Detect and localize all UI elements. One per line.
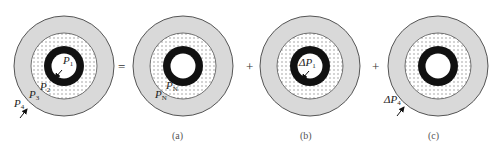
figure-original: P1 P2 P3 P4: [13, 16, 114, 118]
equals-sign: =: [118, 59, 125, 74]
bore: [426, 54, 451, 79]
figure-c: ΔP4 (c): [383, 16, 488, 142]
caption-c: (c): [428, 130, 439, 142]
superposition-diagram: P1 P2 P3 P4 = PN PN (a) + ΔP1 (b) + ΔP4 …: [0, 0, 499, 151]
label-delta-p1: ΔP: [298, 56, 312, 68]
plus-sign-1: +: [246, 59, 253, 74]
outer-pressure-arrow-icon: [397, 107, 404, 116]
figure-a: PN PN (a): [133, 16, 233, 142]
svg-text:P4: P4: [13, 97, 25, 111]
label-delta-p4: ΔP: [383, 93, 397, 105]
figure-b: ΔP1 (b): [260, 16, 360, 142]
plus-sign-2: +: [372, 59, 379, 74]
caption-b: (b): [300, 130, 312, 142]
bore: [171, 54, 196, 79]
caption-a: (a): [172, 130, 183, 142]
